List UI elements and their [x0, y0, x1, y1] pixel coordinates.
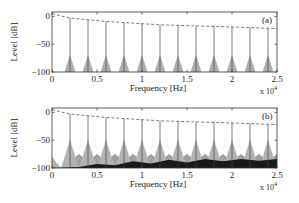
x-tick-label: 2.5 [271, 170, 283, 180]
x-multiplier-b: x 104 [260, 181, 277, 192]
y-axis-label-b: Level [dB] [9, 118, 19, 157]
x-tick-label: 2.5 [271, 74, 283, 84]
y-axis-label-a: Level [dB] [9, 22, 19, 61]
y-tick-label: −100 [31, 163, 50, 173]
x-tick-label: 2 [230, 74, 235, 84]
x-tick-label: 0 [50, 170, 55, 180]
x-tick-label: 0 [50, 74, 55, 84]
y-tick-label: −50 [36, 39, 51, 49]
x-ticks-b: 00.511.522.5 [50, 108, 283, 180]
x-tick-label: 0.5 [91, 170, 103, 180]
y-tick-label: 0 [46, 11, 51, 21]
x-multiplier-a: x 104 [260, 85, 277, 96]
plot-area-a [52, 14, 277, 72]
figure: 0−50−100 00.511.522.5 (a) Level [dB] Fre… [0, 0, 299, 203]
panel-label-b: (b) [262, 111, 273, 121]
panel-b: 0−50−100 00.511.522.5 (b) Level [dB] Fre… [9, 107, 295, 192]
x-tick-label: 0.5 [91, 74, 103, 84]
x-axis-label-b: Frequency [Hz] [130, 179, 187, 189]
envelope-line [52, 110, 277, 125]
panel-label-a: (a) [262, 15, 272, 25]
envelope-line [52, 14, 277, 29]
y-tick-label: −50 [36, 135, 51, 145]
plot-area-b [43, 110, 295, 168]
x-axis-label-a: Frequency [Hz] [130, 83, 187, 93]
x-ticks-a: 00.511.522.5 [50, 12, 283, 84]
panel-a: 0−50−100 00.511.522.5 (a) Level [dB] Fre… [9, 11, 283, 96]
y-tick-label: 0 [46, 107, 51, 117]
x-tick-label: 2 [230, 170, 235, 180]
y-tick-label: −100 [31, 67, 50, 77]
